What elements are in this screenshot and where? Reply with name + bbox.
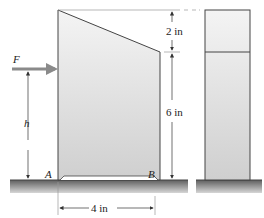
dim-base-label: 4 in	[91, 202, 108, 214]
point-a-label: A	[44, 168, 52, 180]
block-side-view	[205, 10, 250, 180]
dim-side-label: 6 in	[166, 106, 183, 118]
ground-left	[10, 180, 188, 193]
force-label: F	[12, 53, 20, 65]
dim-top-label: 2 in	[166, 25, 183, 37]
dimension-h: h	[24, 72, 30, 178]
force-arrow: F	[12, 53, 55, 69]
dimension-6in: 6 in	[166, 54, 183, 178]
height-label: h	[24, 117, 30, 129]
block-tipping-diagram: 2 in 6 in F h A B 4 in	[0, 0, 264, 218]
dimension-4in: 4 in	[60, 202, 153, 214]
point-b-label: B	[148, 168, 155, 180]
dimension-2in: 2 in	[166, 12, 183, 50]
block-front-view	[58, 10, 160, 180]
ground-right	[196, 180, 262, 193]
